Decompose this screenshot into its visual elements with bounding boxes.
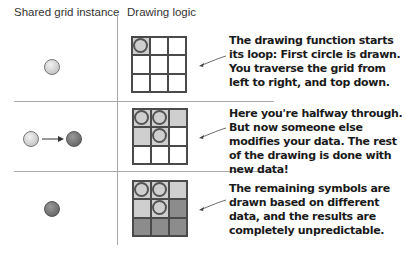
shared-grid-dark-ball-icon bbox=[44, 201, 60, 217]
shared-grid-light-ball-icon bbox=[44, 59, 60, 75]
grid-cell bbox=[133, 109, 151, 127]
grid-cell bbox=[150, 74, 168, 92]
grid-cell bbox=[169, 218, 187, 236]
row-divider-1 bbox=[14, 101, 274, 102]
grid-cell bbox=[133, 127, 151, 145]
grid-cell bbox=[133, 218, 151, 236]
callout-arrow-icon bbox=[198, 55, 228, 71]
callout-arrow-icon bbox=[198, 127, 228, 143]
grid-cell bbox=[150, 55, 168, 73]
grid-cell bbox=[151, 181, 169, 199]
drawing-grid-step-1 bbox=[131, 36, 187, 93]
transition-arrow-icon bbox=[42, 134, 66, 144]
column-divider bbox=[117, 14, 118, 245]
grid-cell bbox=[150, 37, 168, 55]
grid-cell bbox=[169, 146, 187, 164]
shared-grid-light-ball-icon bbox=[23, 131, 39, 147]
header-drawing-logic: Drawing logic bbox=[127, 6, 196, 18]
circle-symbol-icon bbox=[152, 110, 167, 125]
grid-cell bbox=[132, 55, 150, 73]
grid-cell bbox=[151, 199, 169, 217]
grid-cell bbox=[169, 181, 187, 199]
circle-symbol-icon bbox=[134, 182, 149, 197]
circle-symbol-icon bbox=[152, 200, 167, 215]
circle-symbol-icon bbox=[152, 182, 167, 197]
grid-cell bbox=[132, 37, 150, 55]
header-shared-grid-instance: Shared grid instance bbox=[14, 6, 119, 18]
grid-cell bbox=[168, 37, 186, 55]
callout-step-2: Here you're halfway through. But now som… bbox=[229, 107, 409, 177]
grid-cell bbox=[151, 127, 169, 145]
grid-cell bbox=[168, 55, 186, 73]
grid-cell bbox=[168, 74, 186, 92]
callout-step-3: The remaining symbols are drawn based on… bbox=[229, 182, 409, 238]
drawing-grid-step-3 bbox=[132, 180, 188, 237]
grid-cell bbox=[169, 127, 187, 145]
grid-cell bbox=[151, 218, 169, 236]
shared-grid-dark-ball-icon bbox=[66, 131, 82, 147]
grid-cell bbox=[169, 199, 187, 217]
grid-cell bbox=[133, 146, 151, 164]
circle-symbol-icon bbox=[152, 128, 167, 143]
circle-symbol-icon bbox=[133, 38, 148, 53]
grid-cell bbox=[151, 109, 169, 127]
grid-cell bbox=[151, 146, 169, 164]
drawing-grid-step-2 bbox=[132, 108, 188, 165]
callout-arrow-icon bbox=[198, 199, 228, 215]
grid-cell bbox=[133, 181, 151, 199]
grid-cell bbox=[132, 74, 150, 92]
grid-cell bbox=[133, 199, 151, 217]
circle-symbol-icon bbox=[134, 110, 149, 125]
grid-cell bbox=[169, 109, 187, 127]
callout-step-1: The drawing function starts its loop: Fi… bbox=[229, 34, 409, 90]
